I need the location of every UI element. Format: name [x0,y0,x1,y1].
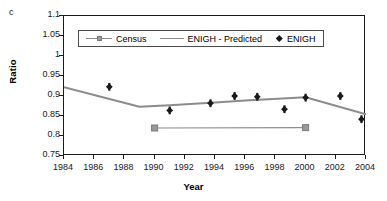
legend-swatch-line-square-icon [86,34,112,44]
data-point-marker-spine [209,99,211,107]
legend-label: ENIGH [287,34,316,44]
panel-letter: c [9,8,14,17]
data-point-marker-spine [256,93,258,101]
y-tick-label: 0.95 [16,70,60,79]
chart-figure: c Ratio Year 0.750.80.850.90.9511.051.1 … [0,0,387,201]
data-point-marker [152,125,158,131]
data-point-marker-spine [234,92,236,100]
legend-item[interactable]: ENIGH [275,34,316,44]
x-axis-title: Year [0,181,387,192]
legend-swatch-diamond-icon [275,34,284,44]
y-tick-label: 0.8 [16,130,60,139]
x-tick-label: 2004 [345,163,385,172]
data-point-marker-spine [108,83,110,91]
data-point-marker-spine [169,107,171,115]
y-tick-label: 1 [16,50,60,59]
legend-item[interactable]: ENIGH - Predicted [160,34,263,44]
legend-item[interactable]: Census [86,34,147,44]
data-point-marker [303,125,309,131]
legend-swatch-line-icon [160,34,184,44]
y-tick-label: 0.85 [16,110,60,119]
series-census [152,125,309,131]
legend-label: Census [116,34,147,44]
y-tick-label: 0.9 [16,90,60,99]
series-enigh-predicted [64,87,366,114]
y-tick-label: 1.05 [16,30,60,39]
y-tick-label: 0.75 [16,150,60,159]
data-point-marker-spine [339,92,341,100]
data-point-marker-spine [360,115,362,123]
y-tick-label: 1.1 [16,10,60,19]
data-point-marker-spine [305,94,307,102]
series-line [64,87,366,114]
legend-label: ENIGH - Predicted [188,34,263,44]
chart-legend: CensusENIGH - PredictedENIGH [78,30,324,47]
data-point-marker-spine [283,105,285,113]
